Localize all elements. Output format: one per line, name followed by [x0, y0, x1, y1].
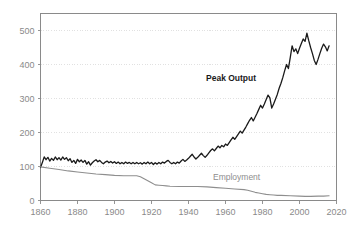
chart-background	[0, 0, 359, 230]
x-tick-label-1860: 1860	[30, 207, 50, 217]
y-tick-label-100: 100	[19, 162, 34, 172]
x-tick-label-1900: 1900	[104, 207, 124, 217]
line-chart: 0100200300400500 18601880190019201940196…	[0, 0, 359, 230]
annotation-employment: Employment	[213, 172, 261, 182]
x-tick-label-1880: 1880	[67, 207, 87, 217]
x-tick-label-1940: 1940	[178, 207, 198, 217]
x-tick-label-2000: 2000	[289, 207, 309, 217]
y-tick-label-400: 400	[19, 60, 34, 70]
y-tick-label-200: 200	[19, 128, 34, 138]
x-tick-label-1980: 1980	[252, 207, 272, 217]
chart-container: 0100200300400500 18601880190019201940196…	[0, 0, 359, 230]
x-axis-ticks: 186018801900192019401960198020002020	[30, 201, 346, 217]
x-tick-label-2020: 2020	[326, 207, 346, 217]
annotation-peak-output: Peak Output	[206, 73, 256, 83]
x-tick-label-1960: 1960	[215, 207, 235, 217]
y-tick-label-500: 500	[19, 26, 34, 36]
y-tick-label-300: 300	[19, 94, 34, 104]
x-tick-label-1920: 1920	[141, 207, 161, 217]
y-tick-label-0: 0	[29, 196, 34, 206]
